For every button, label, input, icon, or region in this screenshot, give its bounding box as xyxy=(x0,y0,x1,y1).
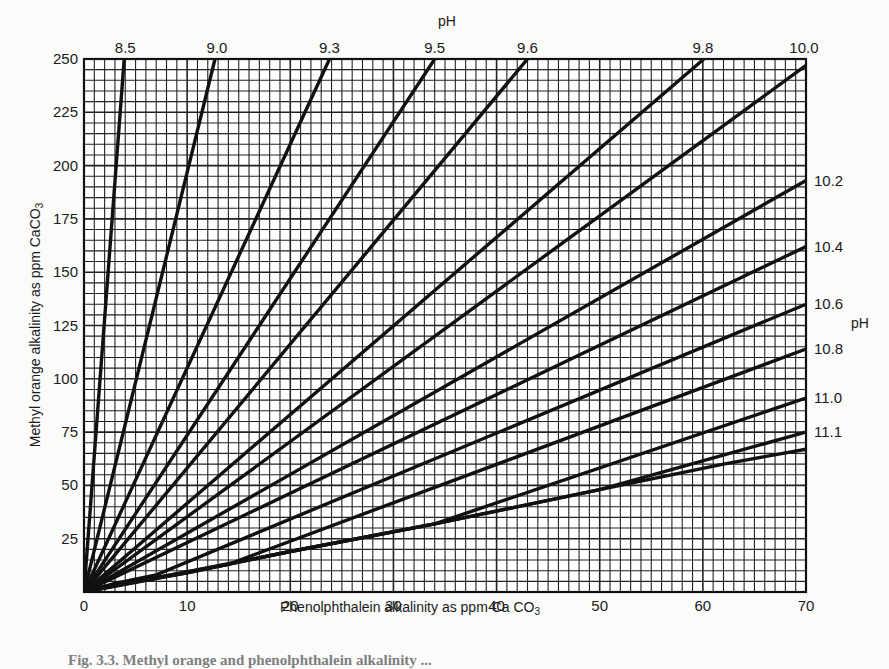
x-tick-label: 60 xyxy=(683,598,723,613)
right-ph-label: 10.8 xyxy=(814,341,843,356)
top-ph-label: 9.5 xyxy=(413,40,457,55)
top-ph-label: 10.0 xyxy=(782,40,826,55)
x-axis-title-subscript: 3 xyxy=(534,606,540,617)
top-ph-label: 9.0 xyxy=(195,40,239,55)
x-axis-title: Phenolphthalein alkalinity as ppm Ca CO3 xyxy=(280,600,540,617)
y-tick-label: 250 xyxy=(38,51,78,66)
y-axis-title-text: Methyl orange alkalinity as ppm CaCO xyxy=(27,208,43,447)
top-ph-label: 9.3 xyxy=(307,40,351,55)
y-axis-title: Methyl orange alkalinity as ppm CaCO3 xyxy=(27,203,45,447)
y-tick-label: 50 xyxy=(38,477,78,492)
top-ph-label: 9.6 xyxy=(506,40,550,55)
x-tick-label: 0 xyxy=(64,598,104,613)
x-axis-title-text: Phenolphthalein alkalinity as ppm Ca CO xyxy=(280,599,534,615)
x-tick-label: 70 xyxy=(786,598,826,613)
right-ph-axis-title: pH xyxy=(851,316,869,330)
y-axis-title-subscript: 3 xyxy=(34,203,45,209)
right-ph-label: 11.0 xyxy=(814,390,842,405)
top-ph-axis-title: pH xyxy=(438,14,456,28)
figure-caption: Fig. 3.3. Methyl orange and phenolphthal… xyxy=(68,652,432,669)
top-ph-label: 8.5 xyxy=(103,40,147,55)
x-tick-label: 10 xyxy=(167,598,207,613)
y-tick-label: 200 xyxy=(38,158,78,173)
y-tick-label: 225 xyxy=(38,104,78,119)
right-ph-label: 11.1 xyxy=(814,424,842,439)
y-tick-label: 25 xyxy=(38,531,78,546)
right-ph-label: 10.4 xyxy=(814,239,843,254)
right-ph-label: 10.6 xyxy=(814,296,843,311)
right-ph-label: 10.2 xyxy=(814,173,843,188)
x-tick-label: 50 xyxy=(580,598,620,613)
top-ph-label: 9.8 xyxy=(681,40,725,55)
